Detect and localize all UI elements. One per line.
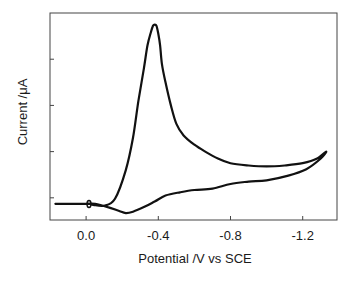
x-axis-label: Potential /V vs SCE — [138, 251, 252, 266]
y-axis-label: Current /μA — [15, 78, 30, 145]
cyclic-voltammogram-chart: 0.0-0.4-0.8-1.2 Potential /V vs SCE Curr… — [0, 0, 355, 283]
x-tick-label-2: -0.8 — [219, 228, 241, 243]
plot-frame — [50, 13, 337, 220]
x-tick-label-3: -1.2 — [292, 228, 314, 243]
series-line-cyclic-voltammogram — [55, 25, 326, 214]
x-tick-label-1: -0.4 — [147, 228, 169, 243]
x-tick-label-0: 0.0 — [77, 228, 95, 243]
